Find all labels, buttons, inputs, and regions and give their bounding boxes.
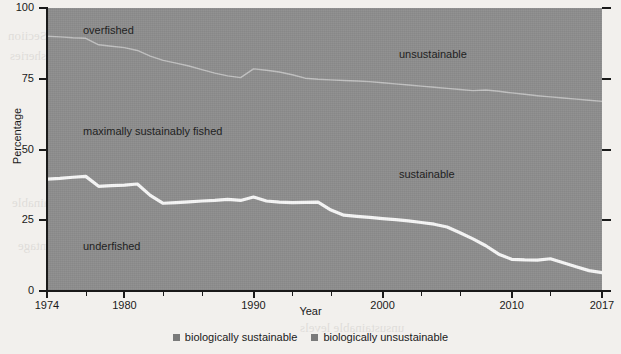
y-tick-right [602, 149, 611, 151]
y-tick-label: 25 [0, 214, 34, 225]
x-tick-minor [292, 292, 293, 296]
y-tick-right [602, 290, 611, 292]
y-tick-label: 100 [0, 2, 34, 13]
legend-label: biologically unsustainable [323, 331, 448, 343]
x-tick [382, 292, 384, 298]
annotation-sustainable: sustainable [399, 169, 455, 180]
maximally-sustainably-fished-boundary-line [47, 36, 602, 101]
x-tick-minor [550, 292, 551, 296]
x-tick [46, 292, 48, 298]
y-tick-label: 0 [0, 285, 34, 296]
x-tick [511, 292, 513, 298]
y-tick-label: 75 [0, 73, 34, 84]
x-tick-minor [163, 292, 164, 296]
x-tick-minor [86, 292, 87, 296]
x-tick-minor [421, 292, 422, 296]
y-tick-right [602, 78, 611, 80]
annotation-unsustainable: unsustainable [399, 49, 467, 60]
plot-area: overfished maximally sustainably fished … [47, 8, 602, 291]
x-tick-minor [331, 292, 332, 296]
y-tick [39, 149, 47, 151]
legend-item[interactable]: biologically sustainable [173, 331, 298, 343]
sustainable-unsustainable-divider-line [47, 176, 602, 272]
x-tick [601, 292, 603, 298]
y-tick [39, 219, 47, 221]
y-tick [39, 78, 47, 80]
fish-stock-area-chart: overfished maximally sustainably fished … [0, 0, 621, 354]
y-axis-title: Percentage [11, 91, 23, 181]
legend-label: biologically sustainable [185, 331, 298, 343]
x-axis-spine [46, 290, 604, 292]
y-tick-right [602, 219, 611, 221]
legend-swatch-icon [173, 334, 180, 341]
x-tick [123, 292, 125, 298]
x-tick [253, 292, 255, 298]
annotation-overfished: overfished [83, 25, 134, 36]
legend-swatch-icon [311, 334, 318, 341]
x-tick-minor [202, 292, 203, 296]
annotation-maximally-sustainably-fished: maximally sustainably fished [83, 126, 222, 137]
y-tick-right [602, 7, 611, 9]
x-axis-title: Year [0, 305, 621, 317]
legend-item[interactable]: biologically unsustainable [311, 331, 448, 343]
y-tick [39, 7, 47, 9]
x-tick-minor [460, 292, 461, 296]
chart-legend: biologically sustainablebiologically uns… [0, 331, 621, 343]
annotation-underfished: underfished [83, 241, 141, 252]
